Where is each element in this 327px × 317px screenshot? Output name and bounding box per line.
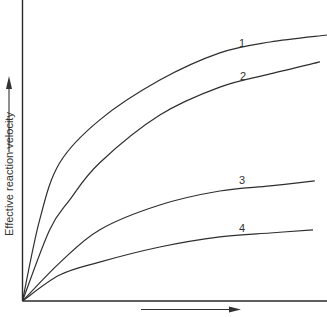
curve-4 — [23, 230, 314, 301]
curve-1 — [23, 35, 327, 301]
x-direction-arrow-icon — [229, 307, 241, 313]
curve-group — [23, 35, 327, 301]
saturation-curves-chart: 1 2 3 4 Effective reaction velocity — [0, 0, 327, 317]
curve-3 — [23, 181, 315, 301]
curve-label-4: 4 — [239, 222, 245, 234]
curve-2 — [23, 62, 321, 301]
curve-label-3: 3 — [239, 174, 245, 186]
curve-label-1: 1 — [239, 37, 245, 49]
y-direction-arrow-icon — [6, 76, 12, 89]
curve-label-2: 2 — [240, 70, 246, 82]
